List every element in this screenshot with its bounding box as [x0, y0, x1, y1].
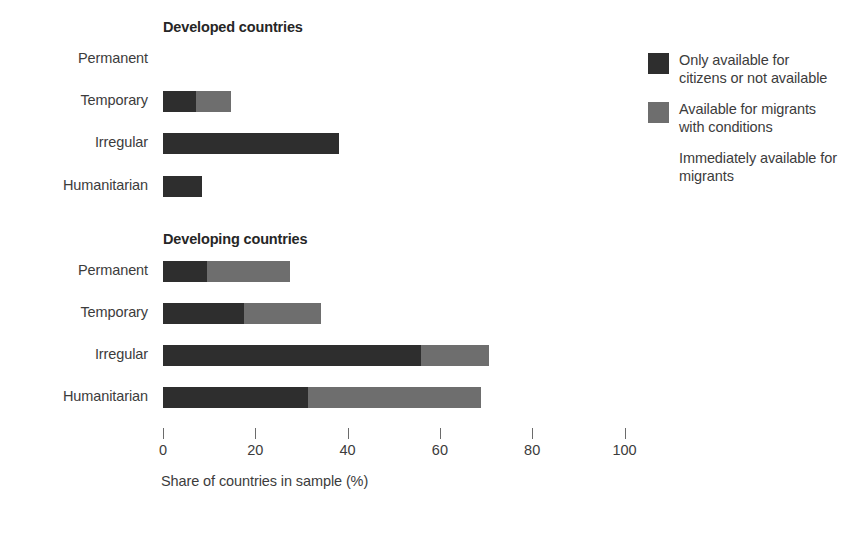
legend-label: Only available for citizens or not avail…	[679, 52, 839, 87]
x-axis: 020406080100	[163, 428, 643, 473]
bar-segment-dark	[163, 176, 202, 197]
legend-item-0[interactable]: Only available for citizens or not avail…	[648, 52, 848, 87]
x-axis-tick-mark	[532, 428, 533, 439]
bar-segment-dark	[163, 133, 339, 154]
bar-segment-dark	[163, 303, 244, 324]
legend-swatch-icon	[648, 102, 669, 123]
legend-swatch-icon	[648, 53, 669, 74]
legend-item-1[interactable]: Available for migrants with conditions	[648, 101, 848, 136]
category-label-permanent: Permanent	[3, 262, 148, 278]
x-axis-tick-mark	[348, 428, 349, 439]
category-label-irregular: Irregular	[3, 346, 148, 362]
bar-segment-dark	[163, 91, 196, 112]
x-axis-tick-label: 60	[420, 442, 460, 458]
category-label-humanitarian: Humanitarian	[3, 388, 148, 404]
legend-label: Available for migrants with conditions	[679, 101, 839, 136]
x-axis-tick-mark	[255, 428, 256, 439]
stacked-bar-chart: Developed countries Developing countries…	[0, 0, 849, 535]
bar-segment-dark	[163, 261, 207, 282]
x-axis-tick-mark	[163, 428, 164, 439]
bar-developing-humanitarian	[163, 387, 481, 408]
category-label-temporary: Temporary	[3, 92, 148, 108]
category-label-humanitarian: Humanitarian	[3, 177, 148, 193]
bar-developed-irregular	[163, 133, 339, 154]
bar-segment-grey	[308, 387, 481, 408]
bar-segment-dark	[163, 345, 421, 366]
legend-label: Immediately available for migrants	[679, 150, 839, 185]
x-axis-tick-label: 0	[143, 442, 183, 458]
bar-developing-permanent	[163, 261, 290, 282]
legend-swatch-icon	[648, 151, 669, 172]
chart-legend: Only available for citizens or not avail…	[648, 52, 848, 199]
bar-segment-grey	[196, 91, 231, 112]
bar-segment-grey	[244, 303, 321, 324]
bar-segment-grey	[207, 261, 290, 282]
bar-developed-temporary	[163, 91, 231, 112]
bar-segment-dark	[163, 387, 308, 408]
x-axis-title: Share of countries in sample (%)	[161, 473, 368, 489]
x-axis-tick-mark	[440, 428, 441, 439]
category-label-temporary: Temporary	[3, 304, 148, 320]
category-label-irregular: Irregular	[3, 134, 148, 150]
bar-developing-temporary	[163, 303, 321, 324]
x-axis-tick-label: 80	[512, 442, 552, 458]
bar-developed-humanitarian	[163, 176, 202, 197]
x-axis-tick-label: 40	[328, 442, 368, 458]
legend-item-2[interactable]: Immediately available for migrants	[648, 150, 848, 185]
bar-segment-grey	[421, 345, 489, 366]
category-label-permanent: Permanent	[3, 50, 148, 66]
x-axis-tick-label: 100	[605, 442, 645, 458]
bar-developing-irregular	[163, 345, 489, 366]
x-axis-tick-label: 20	[235, 442, 275, 458]
x-axis-tick-mark	[625, 428, 626, 439]
bar-developed-permanent	[163, 49, 164, 70]
